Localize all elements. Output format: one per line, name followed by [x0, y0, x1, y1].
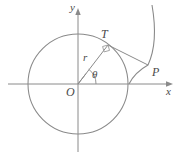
- origin-label: O: [66, 86, 75, 98]
- y-axis-label: y: [70, 2, 75, 13]
- angle-label-theta: θ: [92, 69, 97, 80]
- right-angle-marker-icon: [103, 45, 110, 52]
- x-axis: [8, 81, 173, 86]
- figure-drawing-canvas: [0, 0, 179, 160]
- y-axis-arrowhead: [75, 8, 80, 15]
- involute-circle-figure: y x O T P r θ: [0, 0, 179, 160]
- angle-vertex-ray: [78, 74, 86, 84]
- curve-point-label-P: P: [152, 66, 159, 78]
- tangent-point-label-T: T: [101, 28, 108, 40]
- x-axis-label: x: [166, 86, 171, 97]
- y-axis: [75, 8, 80, 152]
- tangent-segment-TP: [108, 45, 148, 65]
- involute-curve: [129, 5, 154, 84]
- radius-label-r: r: [83, 52, 87, 63]
